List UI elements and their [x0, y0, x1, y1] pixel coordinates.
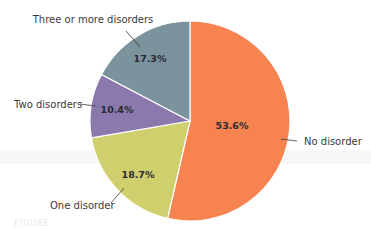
label-no-disorder: No disorder — [304, 136, 363, 147]
pct-label-three-or-more: 17.3% — [134, 53, 167, 64]
figure-caption-fragment: FIGURE — [14, 219, 50, 228]
pie-chart: 17.3% 10.4% 18.7% 53.6% Three or more di… — [0, 0, 371, 230]
label-three-or-more: Three or more disorders — [32, 14, 154, 25]
pct-label-two-disorders: 10.4% — [101, 104, 134, 115]
pct-label-one-disorder: 18.7% — [122, 169, 155, 180]
label-two-disorders: Two disorders — [13, 99, 82, 110]
label-one-disorder: One disorder — [50, 200, 115, 211]
pie-slices — [90, 21, 290, 221]
pct-label-no-disorder: 53.6% — [216, 120, 249, 131]
